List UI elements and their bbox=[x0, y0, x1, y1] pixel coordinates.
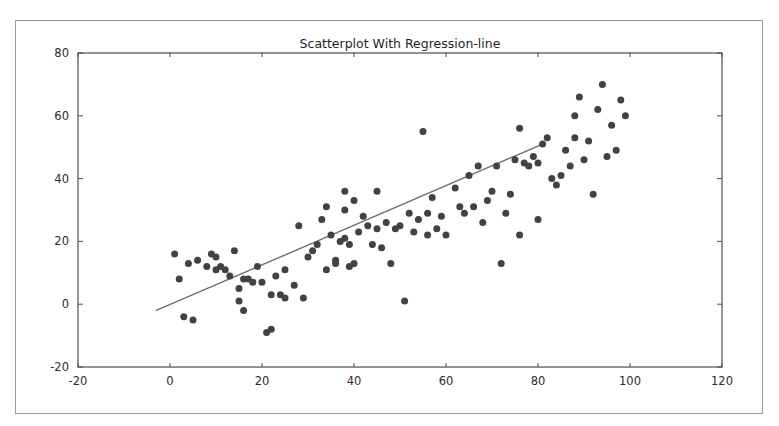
data-point bbox=[291, 282, 298, 289]
data-point bbox=[590, 191, 597, 198]
y-tick-label: 20 bbox=[54, 234, 69, 248]
data-point bbox=[249, 279, 256, 286]
data-point bbox=[562, 147, 569, 154]
data-point bbox=[328, 232, 335, 239]
data-point bbox=[222, 266, 229, 273]
x-tick-label: 0 bbox=[166, 374, 173, 388]
data-point bbox=[309, 247, 316, 254]
data-point bbox=[364, 222, 371, 229]
data-point bbox=[539, 141, 546, 148]
data-point bbox=[484, 197, 491, 204]
data-point bbox=[305, 254, 312, 261]
data-point bbox=[507, 191, 514, 198]
data-point bbox=[613, 147, 620, 154]
data-point bbox=[576, 93, 583, 100]
data-point bbox=[176, 276, 183, 283]
data-point bbox=[535, 216, 542, 223]
data-point bbox=[415, 216, 422, 223]
data-point bbox=[369, 241, 376, 248]
data-point bbox=[282, 266, 289, 273]
data-point bbox=[617, 97, 624, 104]
data-point bbox=[240, 307, 247, 314]
data-point bbox=[585, 137, 592, 144]
data-point bbox=[461, 210, 468, 217]
data-point bbox=[406, 210, 413, 217]
data-point bbox=[548, 175, 555, 182]
data-point bbox=[341, 188, 348, 195]
data-point bbox=[622, 112, 629, 119]
data-point bbox=[259, 279, 266, 286]
x-tick-label: 40 bbox=[347, 374, 362, 388]
data-point bbox=[599, 81, 606, 88]
data-point bbox=[360, 213, 367, 220]
data-point bbox=[314, 241, 321, 248]
data-point bbox=[401, 298, 408, 305]
data-point bbox=[190, 316, 197, 323]
data-point bbox=[351, 197, 358, 204]
data-point bbox=[194, 257, 201, 264]
data-point bbox=[397, 222, 404, 229]
data-point bbox=[272, 272, 279, 279]
data-point bbox=[355, 228, 362, 235]
data-point bbox=[443, 232, 450, 239]
data-point bbox=[594, 106, 601, 113]
data-point bbox=[571, 134, 578, 141]
data-point bbox=[516, 232, 523, 239]
data-point bbox=[608, 122, 615, 129]
data-point bbox=[374, 188, 381, 195]
regression-line-group bbox=[156, 144, 542, 310]
x-tick-label: 20 bbox=[255, 374, 270, 388]
data-point bbox=[185, 260, 192, 267]
data-point bbox=[498, 260, 505, 267]
data-point bbox=[456, 203, 463, 210]
data-point bbox=[171, 250, 178, 257]
data-point bbox=[604, 153, 611, 160]
data-point bbox=[516, 125, 523, 132]
y-tick-label: 0 bbox=[62, 297, 69, 311]
data-point bbox=[424, 210, 431, 217]
chart-title: Scatterplot With Regression-line bbox=[300, 36, 501, 51]
data-point bbox=[452, 185, 459, 192]
data-point bbox=[346, 241, 353, 248]
data-point bbox=[378, 244, 385, 251]
data-point bbox=[530, 153, 537, 160]
x-tick-label: 120 bbox=[711, 374, 733, 388]
data-point bbox=[226, 272, 233, 279]
data-point bbox=[254, 263, 261, 270]
data-point bbox=[424, 232, 431, 239]
data-point bbox=[268, 326, 275, 333]
data-point bbox=[203, 263, 210, 270]
data-point bbox=[429, 194, 436, 201]
data-point bbox=[180, 313, 187, 320]
y-tick-label: 80 bbox=[54, 46, 69, 60]
data-point bbox=[300, 294, 307, 301]
data-point bbox=[332, 260, 339, 267]
data-point bbox=[213, 254, 220, 261]
data-point bbox=[374, 225, 381, 232]
data-point bbox=[567, 163, 574, 170]
data-point bbox=[438, 213, 445, 220]
data-point bbox=[558, 172, 565, 179]
data-point bbox=[571, 112, 578, 119]
data-point bbox=[268, 291, 275, 298]
data-point bbox=[351, 260, 358, 267]
chart-root: -20020406080100120-20020406080Scatterplo… bbox=[0, 0, 779, 426]
y-tick-label: 60 bbox=[54, 109, 69, 123]
data-point bbox=[318, 216, 325, 223]
regression-line bbox=[156, 144, 542, 310]
data-points-group bbox=[171, 81, 629, 336]
data-point bbox=[475, 163, 482, 170]
data-point bbox=[341, 235, 348, 242]
data-point bbox=[525, 163, 532, 170]
data-point bbox=[420, 128, 427, 135]
data-point bbox=[236, 285, 243, 292]
data-point bbox=[489, 188, 496, 195]
data-point bbox=[470, 203, 477, 210]
data-point bbox=[493, 163, 500, 170]
axes-group bbox=[78, 53, 722, 367]
data-point bbox=[466, 172, 473, 179]
data-point bbox=[282, 294, 289, 301]
data-point bbox=[535, 159, 542, 166]
scatterplot-canvas: -20020406080100120-20020406080Scatterplo… bbox=[0, 0, 779, 426]
data-point bbox=[410, 228, 417, 235]
